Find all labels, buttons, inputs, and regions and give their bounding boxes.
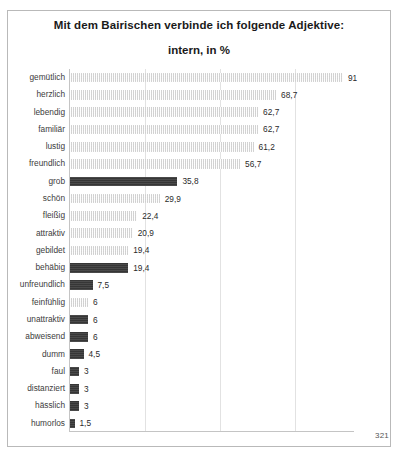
bar-value-label: 6 xyxy=(93,332,98,342)
category-label: gemütlich xyxy=(29,69,65,86)
bar: 62,7 xyxy=(70,125,258,135)
bar: 3 xyxy=(70,367,79,377)
bar-value-label: 7,5 xyxy=(98,280,110,290)
category-label: grob xyxy=(48,173,65,190)
bar-value-label: 4,5 xyxy=(89,349,101,359)
category-label: unfreundlich xyxy=(20,276,65,293)
bar-row: unattraktiv6 xyxy=(70,311,354,328)
category-label: gebildet xyxy=(36,242,65,259)
bar-row: freundlich56,7 xyxy=(70,155,354,172)
page-bleed-strip: · · · xyxy=(0,0,399,9)
category-label: lebendig xyxy=(34,104,65,121)
bar: 29,9 xyxy=(70,194,160,204)
bar: 1,5 xyxy=(70,419,75,429)
bar-row: behäbig19,4 xyxy=(70,259,354,276)
bar-row: fleißig22,4 xyxy=(70,207,354,224)
bar-value-label: 19,4 xyxy=(133,263,149,273)
bar-row: hässlich3 xyxy=(70,397,354,414)
bar-value-label: 62,7 xyxy=(263,124,279,134)
bar-row: faul3 xyxy=(70,363,354,380)
bar: 4,5 xyxy=(70,349,84,359)
bar-row: unfreundlich7,5 xyxy=(70,276,354,293)
category-label: fleißig xyxy=(43,207,65,224)
bar: 68,7 xyxy=(70,90,276,100)
bleed-text: · · · xyxy=(22,0,209,3)
category-label: feinfühlig xyxy=(32,294,65,311)
bar: 6 xyxy=(70,332,88,342)
bar-row: herzlich68,7 xyxy=(70,86,354,103)
category-label: familiär xyxy=(38,121,65,138)
category-label: dumm xyxy=(42,346,65,363)
bar: 3 xyxy=(70,384,79,394)
bar-row: gemütlich91 xyxy=(70,69,354,86)
category-label: abweisend xyxy=(25,328,65,345)
bar: 6 xyxy=(70,298,88,308)
category-label: humorlos xyxy=(31,415,65,432)
category-label: distanziert xyxy=(27,380,65,397)
bar: 20,9 xyxy=(70,228,133,238)
bar-value-label: 56,7 xyxy=(245,159,261,169)
category-label: lustig xyxy=(46,138,65,155)
bar-row: schön29,9 xyxy=(70,190,354,207)
bar-row: lustig61,2 xyxy=(70,138,354,155)
bar: 7,5 xyxy=(70,280,93,290)
bar: 22,4 xyxy=(70,211,137,221)
category-label: hässlich xyxy=(35,397,65,414)
bar-value-label: 35,8 xyxy=(182,176,198,186)
bar-value-label: 1,5 xyxy=(80,418,92,428)
category-label: schön xyxy=(43,190,65,207)
bar-rows: gemütlich91herzlich68,7lebendig62,7famil… xyxy=(70,69,354,431)
bar-value-label: 6 xyxy=(93,297,98,307)
bar-value-label: 6 xyxy=(93,315,98,325)
category-label: freundlich xyxy=(29,155,65,172)
bar-row: abweisend6 xyxy=(70,328,354,345)
bar: 6 xyxy=(70,315,88,325)
category-label: herzlich xyxy=(36,86,65,103)
bar-value-label: 29,9 xyxy=(165,194,181,204)
bar-value-label: 3 xyxy=(84,384,89,394)
category-label: behäbig xyxy=(35,259,65,276)
bar: 61,2 xyxy=(70,142,254,152)
bar: 91 xyxy=(70,73,343,83)
bar-value-label: 19,4 xyxy=(133,245,149,255)
bar: 19,4 xyxy=(70,263,128,273)
bar-value-label: 91 xyxy=(348,73,357,83)
bar-row: gebildet19,4 xyxy=(70,242,354,259)
bar-value-label: 22,4 xyxy=(142,211,158,221)
chart-container: Mit dem Bairischen verbinde ich folgende… xyxy=(7,10,391,447)
bar-value-label: 3 xyxy=(84,366,89,376)
bar: 3 xyxy=(70,401,79,411)
bar-value-label: 62,7 xyxy=(263,107,279,117)
category-label: attraktiv xyxy=(36,225,65,242)
bar-row: humorlos1,5 xyxy=(70,415,354,432)
plot-area: gemütlich91herzlich68,7lebendig62,7famil… xyxy=(69,69,354,432)
bar: 19,4 xyxy=(70,246,128,256)
bar-row: attraktiv20,9 xyxy=(70,225,354,242)
bar-row: distanziert3 xyxy=(70,380,354,397)
bar-row: grob35,8 xyxy=(70,173,354,190)
bar-row: dumm4,5 xyxy=(70,346,354,363)
bar-row: familiär62,7 xyxy=(70,121,354,138)
bar: 35,8 xyxy=(70,177,177,187)
page-number: 321 xyxy=(375,431,389,440)
category-label: unattraktiv xyxy=(27,311,65,328)
bar: 56,7 xyxy=(70,159,240,169)
bar-row: feinfühlig6 xyxy=(70,294,354,311)
bar: 62,7 xyxy=(70,107,258,117)
bar-row: lebendig62,7 xyxy=(70,104,354,121)
bar-value-label: 3 xyxy=(84,401,89,411)
chart-subtitle: intern, in % xyxy=(8,44,390,56)
chart-title: Mit dem Bairischen verbinde ich folgende… xyxy=(22,19,376,33)
bar-value-label: 68,7 xyxy=(281,90,297,100)
bar-value-label: 20,9 xyxy=(138,228,154,238)
bar-value-label: 61,2 xyxy=(259,142,275,152)
category-label: faul xyxy=(52,363,65,380)
